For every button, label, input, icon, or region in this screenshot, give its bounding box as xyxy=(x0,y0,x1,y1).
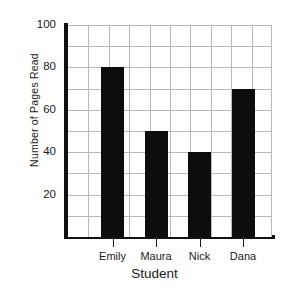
bar-dana xyxy=(232,89,255,237)
bar-emily xyxy=(101,67,124,237)
gridline-horizontal xyxy=(68,46,272,47)
x-tick-mark xyxy=(243,239,244,247)
gridline-horizontal xyxy=(68,67,272,68)
y-axis-tick-labels: 20406080100 xyxy=(22,0,56,293)
plot-top-edge xyxy=(68,25,272,26)
y-tick-label: 80 xyxy=(22,61,56,73)
bar-maura xyxy=(145,131,168,237)
bar-chart-figure: Number of Pages Read 20406080100 EmilyMa… xyxy=(0,0,283,293)
x-tick-mark xyxy=(156,239,157,247)
y-tick-label: 100 xyxy=(22,19,56,31)
gridline-vertical xyxy=(170,25,171,237)
y-tick-label: 40 xyxy=(22,146,56,158)
gridline-vertical xyxy=(129,25,130,237)
bar-nick xyxy=(188,152,211,237)
x-tick-label-dana: Dana xyxy=(213,250,273,262)
plot-right-edge xyxy=(271,25,272,237)
plot-area xyxy=(68,25,272,237)
x-axis-title: Student xyxy=(0,266,283,281)
gridline-vertical xyxy=(88,25,89,237)
x-tick-mark xyxy=(200,239,201,247)
x-tick-mark xyxy=(113,239,114,247)
y-tick-label: 20 xyxy=(22,189,56,201)
y-tick-label: 60 xyxy=(22,104,56,116)
